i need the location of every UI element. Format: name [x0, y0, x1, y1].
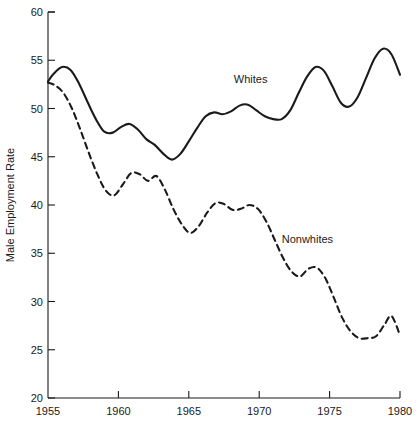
x-tick-label: 1970 — [247, 405, 271, 417]
y-tick-label: 50 — [31, 103, 43, 115]
y-tick-label: 20 — [31, 392, 43, 404]
y-tick-label: 40 — [31, 199, 43, 211]
x-tick-label: 1975 — [317, 405, 341, 417]
x-tick-label: 1965 — [177, 405, 201, 417]
y-axis-tick-labels: 202530354045505560 — [31, 6, 43, 404]
y-tick-label: 55 — [31, 54, 43, 66]
x-tick-label: 1955 — [36, 405, 60, 417]
employment-rate-line-chart: 202530354045505560 195519601965197019751… — [0, 0, 417, 433]
series-line-nonwhites — [48, 82, 400, 338]
series-annotations: WhitesNonwhites — [234, 73, 334, 244]
x-tick-label: 1960 — [106, 405, 130, 417]
x-axis-ticks — [118, 391, 329, 398]
series-label-nonwhites: Nonwhites — [282, 233, 334, 245]
y-tick-label: 45 — [31, 151, 43, 163]
y-tick-label: 30 — [31, 296, 43, 308]
y-tick-label: 60 — [31, 6, 43, 18]
chart-container: 202530354045505560 195519601965197019751… — [0, 0, 417, 433]
series-label-whites: Whites — [234, 73, 268, 85]
y-tick-label: 35 — [31, 247, 43, 259]
y-axis-ticks — [48, 12, 55, 398]
series-line-whites — [48, 49, 400, 160]
x-tick-label: 1980 — [388, 405, 412, 417]
series-lines — [48, 49, 400, 339]
y-tick-label: 25 — [31, 344, 43, 356]
x-axis-tick-labels: 195519601965197019751980 — [36, 405, 412, 417]
y-axis-title: Male Employment Rate — [4, 148, 16, 262]
